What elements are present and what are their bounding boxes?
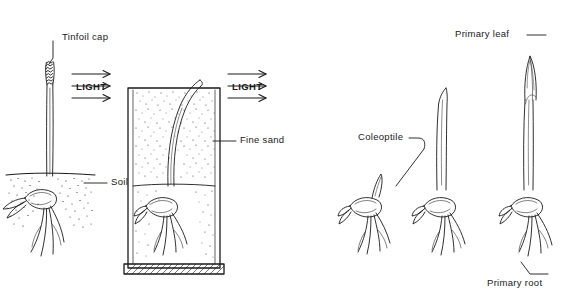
primary-roots-stage2 [432,213,465,255]
beaker-base-hatch [126,264,224,274]
tinfoil-cap-shape [45,62,54,86]
label-coleoptile: Coleoptile [358,131,403,142]
seed-body-panel1 [25,190,57,209]
primary-roots-stage3 [519,213,552,256]
label-primary-leaf: Primary leaf [455,28,509,39]
coleoptile-tip-stage1 [372,174,382,198]
label-soil: Soil [111,176,128,187]
sheath-panel1 [3,198,26,218]
soil-surface-line-panel1 [6,173,95,175]
primary-leaf-stage3 [525,56,537,104]
label-primary-root: Primary root [487,277,542,288]
soil-stipple-panel1 [7,178,93,228]
sheath-panel2 [134,206,147,224]
figure-container: Tinfoil cap LIGHT LIGHT Fine sand Soil C… [0,0,574,302]
primary-roots-panel1 [31,206,64,256]
fine-sand-stipple [136,92,215,178]
sheath-stage2 [412,206,425,224]
label-light-right: LIGHT [232,81,263,92]
coleoptile-curved-panel2 [168,80,203,186]
coleoptile-shaft-stage3 [524,100,534,190]
label-fine-sand: Fine sand [240,134,284,145]
primary-roots-stage1 [358,213,390,254]
sheath-stage1 [338,206,351,224]
label-light-left: LIGHT [76,81,107,92]
leader-tinfoil-cap [49,41,53,64]
coleoptile-shaft-stage2 [437,88,448,190]
leader-primary-root [521,262,548,274]
sheath-stage3 [499,206,512,224]
coleoptile-shaft-panel1 [47,85,54,176]
label-tinfoil-cap: Tinfoil cap [62,31,108,42]
primary-roots-panel2 [154,213,187,255]
leader-coleoptile [396,138,425,186]
diagram-artwork [0,0,574,302]
